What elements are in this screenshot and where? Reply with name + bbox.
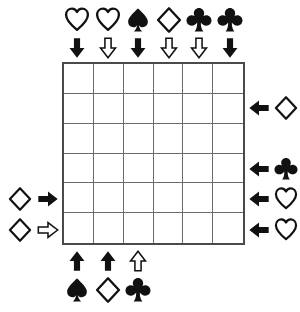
grid-cell[interactable]: [124, 94, 154, 124]
grid-cell[interactable]: [183, 64, 213, 94]
grid-cell[interactable]: [183, 154, 213, 184]
heart-outline-icon: [95, 7, 121, 33]
grid-cell[interactable]: [213, 124, 243, 154]
arrow-left-filled-icon[interactable]: [248, 219, 270, 241]
grid-cell[interactable]: [154, 94, 184, 124]
arrow-left-filled-icon[interactable]: [248, 97, 270, 119]
diamond-outline-icon: [95, 277, 121, 303]
heart-outline-icon: [64, 7, 90, 33]
grid-cell[interactable]: [154, 183, 184, 213]
spade-filled-icon: [125, 7, 151, 33]
grid-cell[interactable]: [213, 213, 243, 243]
grid-cell[interactable]: [64, 183, 94, 213]
grid-cell[interactable]: [64, 94, 94, 124]
club-filled-icon: [217, 7, 243, 33]
club-filled-icon: [274, 157, 298, 181]
diamond-outline-icon: [156, 7, 182, 33]
arrow-right-filled-icon[interactable]: [37, 188, 59, 210]
puzzle-grid[interactable]: [62, 62, 245, 245]
arrow-down-filled-icon[interactable]: [127, 37, 149, 59]
grid-cell[interactable]: [213, 154, 243, 184]
arrow-up-filled-icon[interactable]: [97, 250, 119, 272]
arrow-down-filled-icon[interactable]: [66, 37, 88, 59]
grid-cell[interactable]: [94, 154, 124, 184]
grid-cell[interactable]: [154, 64, 184, 94]
grid-cell[interactable]: [94, 183, 124, 213]
arrow-down-outline-icon[interactable]: [158, 37, 180, 59]
grid-cell[interactable]: [183, 94, 213, 124]
grid-cell[interactable]: [154, 124, 184, 154]
grid-cell[interactable]: [124, 183, 154, 213]
diamond-outline-icon: [8, 187, 32, 211]
grid-cell[interactable]: [213, 183, 243, 213]
grid-cell[interactable]: [124, 64, 154, 94]
heart-outline-icon: [274, 218, 298, 242]
grid-cell[interactable]: [64, 213, 94, 243]
grid-cell[interactable]: [64, 124, 94, 154]
diamond-outline-icon: [8, 218, 32, 242]
arrow-up-outline-icon[interactable]: [127, 250, 149, 272]
grid-cell[interactable]: [64, 64, 94, 94]
club-filled-icon: [186, 7, 212, 33]
arrow-up-filled-icon[interactable]: [66, 250, 88, 272]
grid-cell[interactable]: [213, 64, 243, 94]
arrow-down-filled-icon[interactable]: [219, 37, 241, 59]
grid-cell[interactable]: [154, 213, 184, 243]
arrow-down-outline-icon[interactable]: [188, 37, 210, 59]
heart-outline-icon: [274, 187, 298, 211]
club-filled-icon: [125, 277, 151, 303]
arrow-right-outline-icon[interactable]: [37, 219, 59, 241]
grid-cell[interactable]: [183, 124, 213, 154]
grid-cell[interactable]: [183, 213, 213, 243]
puzzle-canvas: [0, 0, 300, 312]
diamond-outline-icon: [274, 96, 298, 120]
grid-cell[interactable]: [213, 94, 243, 124]
spade-filled-icon: [64, 277, 90, 303]
grid-cell[interactable]: [64, 154, 94, 184]
arrow-left-filled-icon[interactable]: [248, 188, 270, 210]
grid-cell[interactable]: [94, 94, 124, 124]
grid-cell[interactable]: [94, 64, 124, 94]
grid-cell[interactable]: [124, 124, 154, 154]
grid-cell[interactable]: [154, 154, 184, 184]
grid-cell[interactable]: [124, 213, 154, 243]
arrow-down-outline-icon[interactable]: [97, 37, 119, 59]
grid-cell[interactable]: [94, 124, 124, 154]
arrow-left-filled-icon[interactable]: [248, 158, 270, 180]
grid-cell[interactable]: [124, 154, 154, 184]
grid-cell[interactable]: [94, 213, 124, 243]
grid-cell[interactable]: [183, 183, 213, 213]
